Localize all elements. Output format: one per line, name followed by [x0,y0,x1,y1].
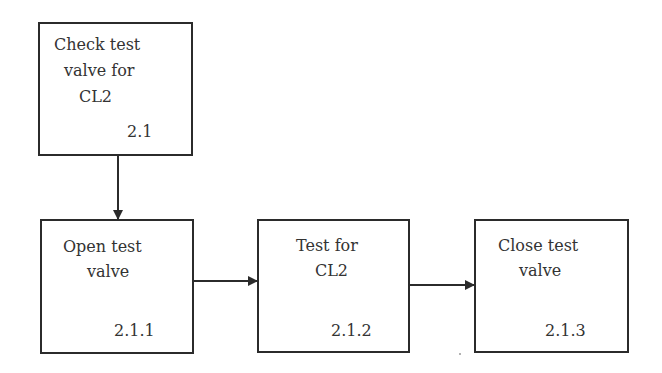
scan-speck [459,353,461,355]
node-2-1-label-line-1: Check test [54,35,140,55]
node-2-1-label-line-3: CL2 [79,87,112,107]
node-2-1-2-number: 2.1.2 [331,321,372,341]
node-2-1-2-label-line-1: Test for [296,236,358,256]
node-2-1-3-label-line-2: valve [519,261,561,281]
node-2-1-2-label-line-2: CL2 [315,261,348,281]
node-2-1-3-number: 2.1.3 [545,321,586,341]
node-2-1-1-number: 2.1.1 [114,321,155,341]
node-2-1-1-label-line-2: valve [87,262,129,282]
node-2-1-1-label-line-1: Open test [63,237,142,257]
node-2-1-3-label-line-1: Close test [498,236,578,256]
node-2-1-number: 2.1 [127,122,152,142]
node-2-1-label-line-2: valve for [64,61,135,81]
